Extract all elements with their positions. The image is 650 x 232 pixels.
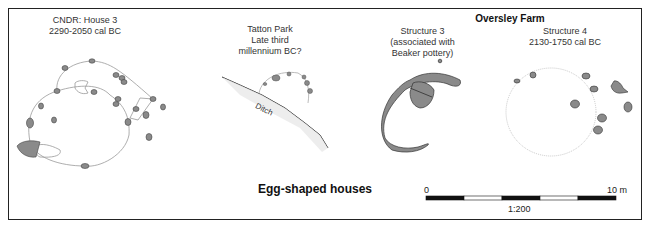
cndr-post-holes [17,59,166,169]
scale-start-label: 0 [424,185,429,195]
plan-date-line2: millennium BC? [230,46,310,57]
scale-ratio-label: 1:200 [508,204,531,214]
structure-4-plan [506,68,632,156]
plan-name: Tatton Park [230,24,310,35]
plan-date: 2130-1750 cal BC [510,37,620,48]
scale-bar [426,196,616,200]
tatton-park-plan [222,72,328,152]
plan-name: CNDR: House 3 [30,15,140,26]
plan-note-line2: Beaker pottery) [375,48,470,59]
structure-4-title: Structure 4 2130-1750 cal BC [510,26,620,48]
scale-end-label: 10 m [607,185,627,195]
plan-note-line1: (associated with [375,37,470,48]
oversley-farm-title: Oversley Farm [440,13,580,24]
plan-name: Structure 3 [375,26,470,37]
figure-title: Egg-shaped houses [250,184,380,195]
structure-3-plan [382,59,461,152]
tatton-park-title: Tatton Park Late third millennium BC? [230,24,310,57]
structure-3-title: Structure 3 (associated with Beaker pott… [375,26,470,59]
cndr-house-3-title: CNDR: House 3 2290-2050 cal BC [30,15,140,37]
plan-date: 2290-2050 cal BC [30,26,140,37]
cndr-house-3-plan [29,61,153,166]
plan-date-line1: Late third [230,35,310,46]
plan-name: Structure 4 [510,26,620,37]
